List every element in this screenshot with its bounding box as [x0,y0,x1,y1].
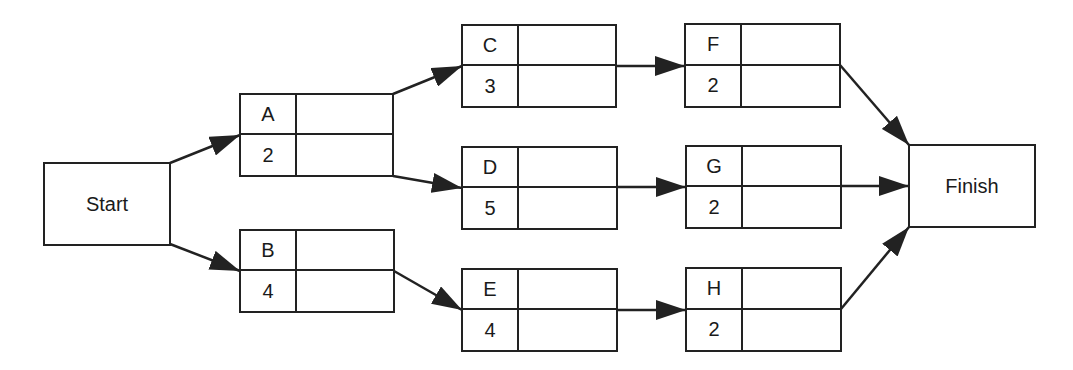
activity-bottom-right-cell [297,135,392,175]
activity-top-right-cell [519,26,615,66]
edge-h-finish [841,227,909,309]
activity-bottom-right-cell [519,66,615,106]
activity-duration: 3 [463,66,519,106]
network-diagram: Start A 2 B 4 C 3 D 5 E 4 F 2 [0,0,1073,370]
activity-top-right-cell [743,269,840,310]
activity-id: G [687,147,743,187]
activity-id: D [463,148,519,188]
activity-node-d: D 5 [461,146,618,230]
activity-node-f: F 2 [684,23,841,108]
activity-bottom-right-cell [743,310,840,351]
activity-duration: 2 [686,66,742,107]
activity-duration: 4 [463,310,519,350]
activity-top-right-cell [742,25,839,66]
activity-top-right-cell [297,95,392,135]
activity-top-right-cell [743,147,840,187]
activity-bottom-right-cell [742,66,839,107]
activity-id: F [686,25,742,66]
edge-a-c [393,66,462,94]
activity-top-right-cell [519,148,616,188]
activity-bottom-right-cell [743,187,840,227]
activity-id: E [463,270,519,310]
edge-start-b [170,244,240,271]
activity-duration: 4 [241,271,297,311]
edge-b-e [394,271,462,310]
activity-id: C [463,26,519,66]
activity-top-right-cell [297,231,393,271]
edge-a-d [393,176,462,188]
finish-node: Finish [908,144,1036,228]
activity-duration: 5 [463,188,519,228]
activity-node-e: E 4 [461,268,618,352]
start-node: Start [43,162,171,246]
activity-node-b: B 4 [239,229,395,313]
activity-bottom-right-cell [519,310,616,350]
activity-id: A [241,95,297,135]
activity-duration: 2 [687,310,743,351]
activity-bottom-right-cell [519,188,616,228]
activity-id: B [241,231,297,271]
finish-label: Finish [945,175,998,198]
activity-node-c: C 3 [461,24,617,108]
activity-top-right-cell [519,270,616,310]
edge-f-finish [840,65,909,145]
activity-node-g: G 2 [685,145,842,229]
activity-node-h: H 2 [685,267,842,352]
activity-id: H [687,269,743,310]
edge-start-a [170,135,240,163]
start-label: Start [86,193,128,216]
activity-duration: 2 [687,187,743,227]
activity-bottom-right-cell [297,271,393,311]
activity-node-a: A 2 [239,93,394,177]
activity-duration: 2 [241,135,297,175]
